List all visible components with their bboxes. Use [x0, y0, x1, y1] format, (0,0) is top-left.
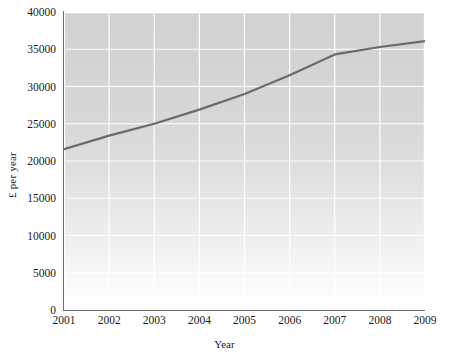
x-tick-label: 2004 [188, 313, 211, 327]
x-tick-label: 2006 [278, 313, 301, 327]
y-axis-ticks: 0500010000150002000025000300003500040000 [0, 0, 60, 363]
x-tick-label: 2002 [98, 313, 121, 327]
y-tick-label: 25000 [27, 118, 56, 129]
y-tick-label: 35000 [27, 44, 56, 55]
y-tick-label: 10000 [27, 230, 56, 241]
y-tick-label: 30000 [27, 81, 56, 92]
x-tick-label: 2007 [323, 313, 346, 327]
plot-area [64, 12, 425, 310]
y-tick-label: 5000 [33, 267, 56, 278]
y-tick-label: 15000 [27, 193, 56, 204]
x-tick-label: 2003 [143, 313, 166, 327]
x-tick-label: 2005 [233, 313, 256, 327]
x-tick-label: 2001 [53, 313, 76, 327]
x-axis-ticks: 200120022003200420052006200720082009 [0, 313, 449, 333]
y-tick-label: 20000 [27, 156, 56, 167]
line-chart: £ per year 05000100001500020000250003000… [0, 0, 449, 363]
x-tick-label: 2009 [414, 313, 437, 327]
plot-svg [64, 12, 425, 310]
x-axis-line [63, 310, 425, 311]
x-tick-label: 2008 [368, 313, 391, 327]
x-axis-title: Year [0, 338, 449, 350]
y-tick-label: 40000 [27, 7, 56, 18]
